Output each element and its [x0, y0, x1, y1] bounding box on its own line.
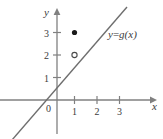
tick-label-y-2: 2: [42, 51, 51, 61]
curve-label-rhs: g(x): [119, 28, 137, 40]
tick-label-y-3: 3: [42, 29, 51, 39]
filled-point-marker: [72, 30, 77, 35]
y-axis-label: y: [44, 7, 49, 18]
tick-label-x-2: 2: [93, 107, 102, 117]
curve-label: y=g(x): [108, 29, 137, 40]
x-axis: [0, 97, 157, 104]
open-point-marker: [72, 52, 77, 57]
y-axis: [54, 8, 61, 134]
tick-label-x-1: 1: [70, 107, 79, 117]
tick-label-x-3: 3: [115, 107, 124, 117]
x-axis-label: x: [152, 101, 157, 112]
tick-label-y-1: 1: [42, 74, 51, 84]
tick-label-origin: 0: [44, 104, 53, 114]
graph-figure: y x 0 1 2 3 1 2 3 y=g(x): [0, 0, 163, 139]
function-line: [12, 7, 127, 139]
coordinate-plane-svg: [0, 0, 163, 139]
